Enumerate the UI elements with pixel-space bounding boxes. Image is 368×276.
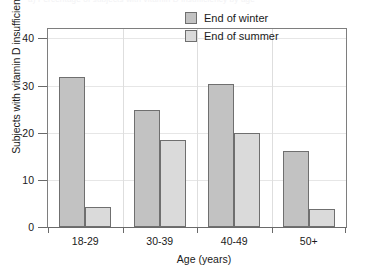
y-axis-tick-label: 30 <box>8 80 34 92</box>
y-axis-tick <box>38 133 47 134</box>
bar-18-29-summer <box>85 207 111 227</box>
x-axis-tick <box>48 227 49 233</box>
x-axis-category-label: 30-39 <box>146 235 173 247</box>
bar-40-49-summer <box>234 133 260 227</box>
plot-area: 01020304018-2930-3940-4950+ <box>47 28 347 228</box>
bar-50+-winter <box>283 151 309 227</box>
legend-item-winter: End of winter <box>185 12 279 24</box>
legend-label-winter: End of winter <box>204 12 268 24</box>
gridline-vertical <box>272 29 273 227</box>
y-axis-tick <box>38 180 47 181</box>
y-axis-tick-label: 40 <box>8 32 34 44</box>
x-axis-tick <box>272 227 273 233</box>
bar-30-39-summer <box>160 140 186 227</box>
bar-40-49-winter <box>208 84 234 227</box>
bar-30-39-winter <box>134 110 160 227</box>
y-axis-tick-label: 0 <box>8 221 34 233</box>
legend: End of winter End of summer <box>185 12 279 42</box>
y-axis-tick-label: 20 <box>8 127 34 139</box>
bar-chart-figure: a) Percentage of subjects with vitamin D… <box>0 0 368 276</box>
x-axis-title: Age (years) <box>40 253 368 265</box>
legend-swatch-summer <box>185 30 197 42</box>
x-axis-tick <box>345 227 346 233</box>
x-axis-category-label: 40-49 <box>221 235 248 247</box>
bar-50+-summer <box>309 209 335 227</box>
gridline-vertical <box>123 29 124 227</box>
x-axis-category-label: 50+ <box>300 235 318 247</box>
x-axis-tick <box>197 227 198 233</box>
y-axis-tick-label: 10 <box>8 174 34 186</box>
bar-18-29-winter <box>59 77 85 227</box>
cropped-caption-text: a) Percentage of subjects with vitamin D… <box>0 0 368 9</box>
y-axis-tick <box>38 86 47 87</box>
legend-label-summer: End of summer <box>204 30 279 42</box>
y-axis-tick <box>38 38 47 39</box>
legend-swatch-winter <box>185 12 197 24</box>
gridline-vertical <box>197 29 198 227</box>
legend-item-summer: End of summer <box>185 30 279 42</box>
x-axis-tick <box>123 227 124 233</box>
x-axis-category-label: 18-29 <box>72 235 99 247</box>
y-axis-tick <box>38 227 47 228</box>
